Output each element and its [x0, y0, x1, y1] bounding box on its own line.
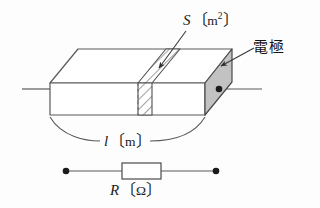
area-bracket-close: 〕: [223, 11, 239, 28]
length-arc-left: [50, 117, 100, 141]
electrode-contact-dot: [216, 86, 223, 93]
resistor-circuit: [63, 163, 220, 179]
resistance-symbol: R: [110, 182, 120, 198]
length-arc-right: [150, 117, 205, 141]
resistance-unit: Ω: [136, 183, 146, 198]
block-front-face: [50, 83, 205, 115]
block-top-face: [50, 49, 232, 83]
length-label: l〔m〕: [104, 133, 151, 149]
figure-canvas: [0, 0, 320, 208]
resistance-bracket-open: 〔: [120, 181, 136, 198]
cross-section-front: [138, 83, 152, 115]
length-bracket-open: 〔: [109, 132, 125, 149]
resistance-label: R〔Ω〕: [110, 182, 162, 198]
resistor-symbol: [122, 163, 161, 179]
resistance-bracket-close: 〕: [146, 181, 162, 198]
physics-figure: S〔m2〕 電極 l〔m〕 R〔Ω〕: [0, 0, 320, 208]
electrode-label: 電極: [253, 40, 284, 55]
circuit-node-left: [63, 168, 70, 175]
area-bracket-open: 〔: [192, 11, 208, 28]
area-symbol: S: [183, 12, 192, 28]
length-bracket-close: 〕: [136, 132, 152, 149]
area-label: S〔m2〕: [183, 12, 238, 28]
area-unit: m: [207, 13, 218, 28]
length-unit: m: [125, 134, 136, 149]
circuit-node-right: [213, 168, 220, 175]
